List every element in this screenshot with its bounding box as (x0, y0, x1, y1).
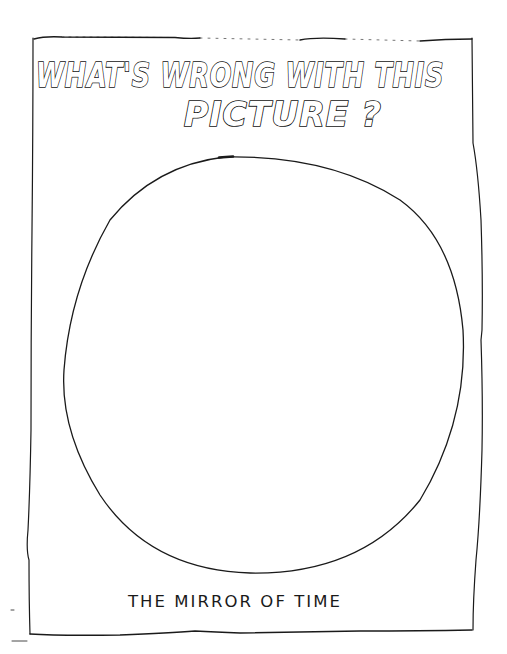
drawing-canvas: WHAT'S WRONG WITH THIS PICTURE ? THE MIR… (0, 0, 507, 654)
caption: THE MIRROR OF TIME (127, 592, 342, 611)
mirror-circle (64, 157, 464, 574)
title-line-2: PICTURE ? (184, 95, 382, 134)
title-line-1: WHAT'S WRONG WITH THIS (36, 56, 444, 95)
